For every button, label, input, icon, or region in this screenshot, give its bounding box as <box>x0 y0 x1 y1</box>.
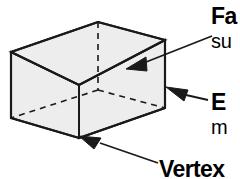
diagram-canvas: Fa su E m Vertex <box>0 0 240 179</box>
label-edge-heading: E <box>211 91 226 114</box>
vertex-arrowhead-icon <box>79 136 101 149</box>
label-face-subtext: su <box>211 31 232 51</box>
label-vertex-heading: Vertex <box>159 158 224 179</box>
rectangular-prism-figure <box>0 0 240 179</box>
vertex-leader-line <box>100 143 158 163</box>
label-edge-subtext: m <box>211 117 227 137</box>
label-face-heading: Fa <box>211 5 237 28</box>
edge-leader-line <box>186 95 208 100</box>
edge-arrowhead-icon <box>166 87 188 101</box>
